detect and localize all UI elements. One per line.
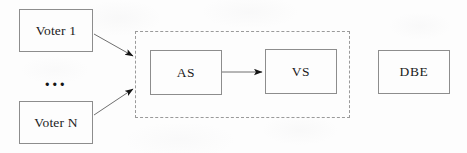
voters-ellipsis-label: ... [45, 69, 68, 89]
node-dbe[interactable]: DBE [378, 50, 450, 94]
node-voter-n[interactable]: Voter N [19, 101, 93, 144]
node-voter-n-label: Voter N [34, 116, 78, 130]
node-voter-1-label: Voter 1 [36, 24, 77, 38]
node-vs[interactable]: VS [265, 49, 337, 94]
node-voter-1[interactable]: Voter 1 [19, 9, 93, 52]
node-dbe-label: DBE [400, 65, 429, 79]
voters-ellipsis: ... [19, 66, 93, 92]
edge-voter-1-to-trust-boundary [94, 34, 133, 56]
node-as-label: AS [177, 66, 195, 80]
node-as[interactable]: AS [150, 50, 222, 95]
edge-voter-n-to-trust-boundary [94, 89, 133, 115]
node-vs-label: VS [292, 65, 310, 79]
diagram-canvas: Voter 1 ... Voter N AS VS DBE [0, 0, 467, 153]
